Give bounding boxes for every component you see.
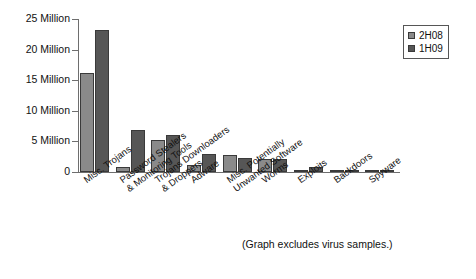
legend-label-1h09: 1H09 [419,43,443,54]
y-axis-tick-label: 10 Million [0,105,70,116]
bar-group [365,19,395,172]
y-axis-tick-label: 0 [0,166,70,177]
legend-swatch-1h09 [408,45,415,52]
bar-group [80,19,110,172]
bar [80,73,94,172]
y-axis-tick-label: 15 Million [0,74,70,85]
y-axis-tick-label: 25 Million [0,13,70,24]
y-axis-tick [72,141,79,142]
y-axis-tick-text: 10 Million [26,105,70,116]
chart-legend: 2H08 1H09 [403,25,449,59]
y-axis-tick-text: 15 Million [26,74,70,85]
y-axis-tick [72,80,79,81]
bar [95,30,109,172]
y-axis-tick-text: 0 [64,166,70,177]
y-axis-tick-text: 20 Million [26,44,70,55]
legend-item: 2H08 [408,29,443,42]
y-axis-tick [72,50,79,51]
y-axis-tick-label: 20 Million [0,44,70,55]
bar-chart: 05 Million10 Million15 Million20 Million… [0,0,476,279]
legend-item: 1H09 [408,42,443,55]
legend-label-2h08: 2H08 [419,30,443,41]
chart-footnote: (Graph excludes virus samples.) [242,238,393,250]
legend-swatch-2h08 [408,32,415,39]
y-axis-tick-text: 25 Million [26,13,70,24]
y-axis-tick [72,111,79,112]
y-axis-tick-label: 5 Million [0,135,70,146]
y-axis-tick [72,19,79,20]
bar-group [330,19,360,172]
y-axis-tick [72,172,79,173]
y-axis-tick-text: 5 Million [31,135,70,146]
